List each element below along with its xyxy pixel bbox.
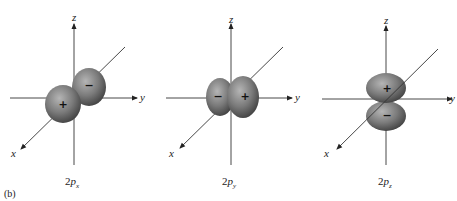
z-axis-label-2px: z [72, 12, 76, 23]
caption-2px: 2px [65, 176, 79, 190]
z-axis-label-2py: z [229, 14, 233, 25]
y-axis-label-2py: y [295, 92, 300, 103]
plus-sign-2pz: + [382, 83, 391, 94]
orbital-2py-diagram [166, 24, 292, 165]
minus-sign-2pz: − [382, 110, 391, 121]
orbital-figure [0, 0, 457, 201]
orbital-2pz-diagram [322, 26, 452, 165]
z-axis-label-2pz: z [384, 15, 388, 26]
x-axis-label-2px: x [11, 148, 16, 159]
plus-sign-2px: + [58, 99, 67, 110]
y-axis-label-2px: y [140, 92, 145, 103]
minus-sign-2py: − [213, 91, 222, 102]
minus-sign-2px: − [84, 80, 93, 91]
panel-label: (b) [4, 189, 16, 199]
caption-2pz: 2pz [378, 176, 392, 190]
x-axis-label-2pz: x [324, 148, 329, 159]
caption-2py: 2py [222, 176, 236, 190]
plus-sign-2py: + [240, 91, 249, 102]
orbital-2px-diagram [10, 24, 137, 165]
y-axis-label-2pz: y [450, 93, 455, 104]
x-axis-label-2py: x [169, 148, 174, 159]
